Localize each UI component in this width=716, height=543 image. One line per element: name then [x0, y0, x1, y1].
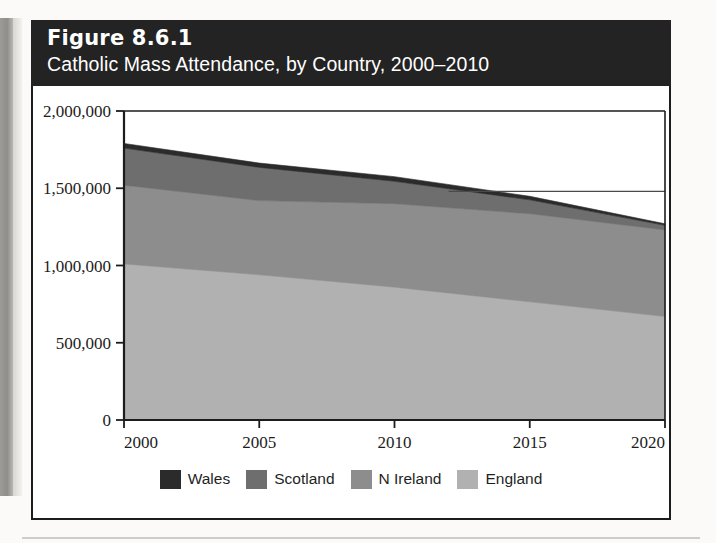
svg-text:2,000,000: 2,000,000 [43, 102, 111, 121]
page-bottom-rule [22, 537, 700, 539]
page-edge-shadow [13, 18, 22, 496]
figure-number: Figure 8.6.1 [47, 25, 671, 51]
legend-label-n-ireland: N Ireland [379, 470, 442, 488]
svg-text:1,500,000: 1,500,000 [43, 179, 111, 198]
svg-text:2015: 2015 [513, 433, 547, 452]
page-edge-artifact [0, 18, 13, 496]
legend-label-england: England [485, 470, 542, 488]
svg-text:2010: 2010 [378, 433, 412, 452]
svg-text:2000: 2000 [124, 433, 158, 452]
chart-area: 0500,0001,000,0001,500,0002,000,00020002… [33, 86, 669, 518]
legend-item-scotland: Scotland [246, 470, 334, 489]
legend-swatch-n-ireland [351, 470, 372, 489]
figure-title: Catholic Mass Attendance, by Country, 20… [47, 51, 671, 77]
svg-text:2005: 2005 [242, 433, 276, 452]
legend-swatch-scotland [246, 470, 267, 489]
chart-legend: Wales Scotland N Ireland England [33, 466, 669, 492]
legend-swatch-england [457, 470, 478, 489]
svg-text:500,000: 500,000 [56, 334, 111, 353]
legend-label-scotland: Scotland [274, 470, 334, 488]
legend-label-wales: Wales [188, 470, 231, 488]
stacked-area-chart: 0500,0001,000,0001,500,0002,000,00020002… [33, 86, 669, 518]
legend-swatch-wales [160, 470, 181, 489]
svg-text:0: 0 [103, 411, 112, 430]
svg-text:2020: 2020 [631, 433, 665, 452]
figure-title-band: Figure 8.6.1 Catholic Mass Attendance, b… [31, 20, 671, 86]
legend-item-n-ireland: N Ireland [351, 470, 442, 489]
svg-text:1,000,000: 1,000,000 [43, 257, 111, 276]
legend-item-england: England [457, 470, 542, 489]
legend-item-wales: Wales [160, 470, 231, 489]
